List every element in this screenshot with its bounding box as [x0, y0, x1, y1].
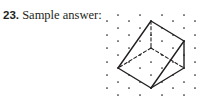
grid-dot [117, 27, 119, 29]
visible-edge [151, 68, 184, 88]
hidden-edge [118, 48, 151, 68]
grid-dot [183, 14, 185, 16]
visible-edge [118, 21, 151, 68]
grid-dot [161, 14, 163, 16]
grid-dot [139, 27, 141, 29]
grid-dot [117, 94, 119, 96]
grid-dot [183, 94, 185, 96]
grid-dot [139, 14, 141, 16]
grid-dot [106, 87, 108, 89]
grid-dot [106, 20, 108, 22]
grid-dot [150, 74, 152, 76]
grid-dot [139, 94, 141, 96]
grid-dot [161, 40, 163, 42]
grid-dot [194, 87, 196, 89]
grid-dot [128, 20, 130, 22]
grid-dot [128, 34, 130, 36]
grid-dot [106, 61, 108, 63]
grid-dot [194, 74, 196, 76]
grid-dot [161, 94, 163, 96]
grid-dot [117, 81, 119, 83]
prism-drawing [0, 0, 205, 102]
grid-dot [172, 47, 174, 49]
grid-dot [117, 54, 119, 56]
grid-dot [106, 47, 108, 49]
grid-dot [172, 20, 174, 22]
grid-dot [183, 27, 185, 29]
grid-dot [194, 47, 196, 49]
grid-dot [194, 34, 196, 36]
grid-dot [139, 67, 141, 69]
grid-dot [194, 20, 196, 22]
grid-dot [106, 74, 108, 76]
grid-dot [128, 87, 130, 89]
grid-dot [183, 81, 185, 83]
grid-dot [194, 61, 196, 63]
visible-edges [118, 21, 184, 88]
grid-dot [139, 40, 141, 42]
grid-dot [106, 34, 108, 36]
visible-edge [151, 41, 184, 88]
grid-dot [128, 47, 130, 49]
grid-dot [172, 87, 174, 89]
grid-dot [117, 14, 119, 16]
grid-dot [161, 67, 163, 69]
grid-dot [150, 61, 152, 63]
hidden-edges [118, 21, 184, 68]
visible-edge [151, 21, 184, 41]
visible-edge [118, 68, 151, 88]
grid-dot [117, 40, 119, 42]
